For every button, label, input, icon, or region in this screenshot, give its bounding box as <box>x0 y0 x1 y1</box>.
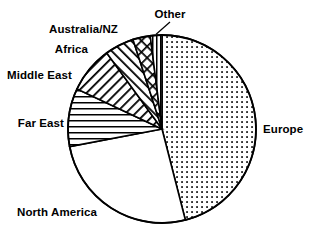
pie-label-other: Other <box>154 8 186 20</box>
pie-slices-group <box>68 35 256 223</box>
pie-label-australia-nz: Australia/NZ <box>49 23 118 35</box>
pie-label-africa: Africa <box>55 43 89 55</box>
label-leader-lines <box>156 22 170 34</box>
pie-chart-figure: Europe North America Far East Middle Eas… <box>0 0 314 243</box>
pie-label-middle-east: Middle East <box>7 69 72 81</box>
pie-label-europe: Europe <box>263 123 303 135</box>
pie-label-far-east: Far East <box>18 117 64 129</box>
pie-label-north-america: North America <box>17 206 98 218</box>
leader-line-other <box>156 22 170 34</box>
pie-chart-canvas: Europe North America Far East Middle Eas… <box>0 0 314 243</box>
